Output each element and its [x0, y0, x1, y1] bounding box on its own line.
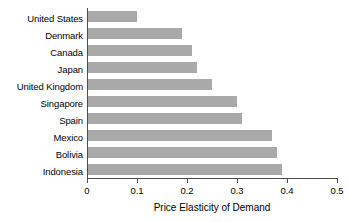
category-label-united-states: United States — [0, 13, 83, 24]
x-tick-label-4: 0.4 — [267, 185, 307, 196]
category-label-japan: Japan — [0, 64, 83, 75]
bar-bolivia — [87, 147, 277, 158]
x-tick-label-3: 0.3 — [217, 185, 257, 196]
category-label-denmark: Denmark — [0, 30, 83, 41]
x-axis-line — [87, 178, 338, 179]
x-tick-label-1: 0.1 — [117, 185, 157, 196]
x-tick-label-0: 0 — [67, 185, 107, 196]
category-label-united-kingdom: United Kingdom — [0, 81, 83, 92]
category-label-indonesia: Indonesia — [0, 166, 83, 177]
category-label-bolivia: Bolivia — [0, 149, 83, 160]
y-axis-line — [87, 8, 88, 179]
bar-chart: United States Denmark Canada Japan Unite… — [0, 0, 350, 222]
plot-area — [87, 8, 337, 178]
category-label-spain: Spain — [0, 115, 83, 126]
bar-canada — [87, 45, 192, 56]
bar-spain — [87, 113, 242, 124]
x-tick-3 — [237, 179, 238, 183]
bar-united-kingdom — [87, 79, 212, 90]
x-axis-title: Price Elasticity of Demand — [0, 202, 350, 214]
bar-indonesia — [87, 164, 282, 175]
x-tick-label-5: 0.5 — [317, 185, 350, 196]
x-tick-label-2: 0.2 — [167, 185, 207, 196]
category-label-canada: Canada — [0, 47, 83, 58]
x-tick-4 — [287, 179, 288, 183]
x-tick-2 — [187, 179, 188, 183]
x-tick-0 — [87, 179, 88, 183]
x-tick-1 — [137, 179, 138, 183]
bar-denmark — [87, 28, 182, 39]
category-label-singapore: Singapore — [0, 98, 83, 109]
bar-united-states — [87, 11, 137, 22]
x-tick-5 — [337, 179, 338, 183]
category-label-mexico: Mexico — [0, 132, 83, 143]
bar-japan — [87, 62, 197, 73]
bar-mexico — [87, 130, 272, 141]
bar-singapore — [87, 96, 237, 107]
